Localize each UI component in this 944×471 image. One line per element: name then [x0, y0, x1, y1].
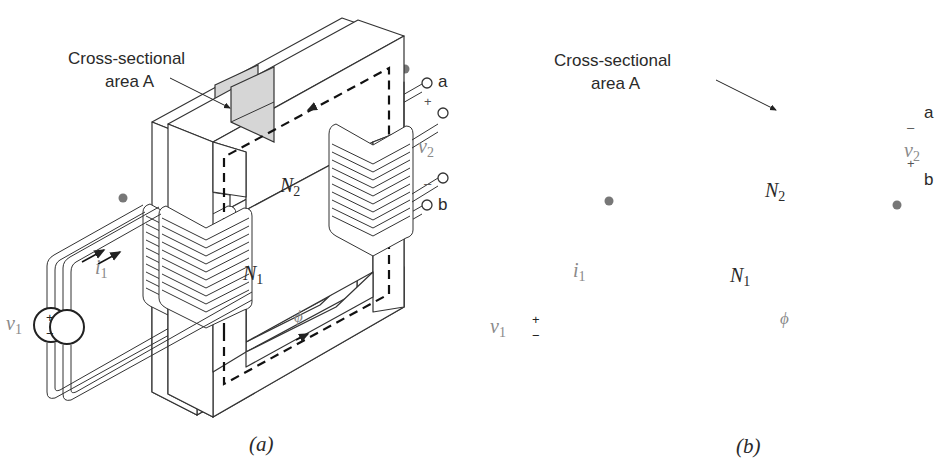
- terminal-b-polarity-b: +: [907, 157, 915, 170]
- source-minus-b: −: [532, 329, 540, 342]
- source-plus-b: +: [532, 313, 540, 326]
- secondary-turns-label: N2: [280, 175, 300, 199]
- cross-section-label-line2-b: area A: [591, 75, 640, 92]
- cross-section-pointer-arrow: [0, 0, 944, 471]
- terminal-a-polarity: +: [424, 95, 432, 108]
- source-plus: +: [46, 311, 54, 324]
- cross-section-label-line1-b: Cross-sectional: [554, 52, 671, 69]
- primary-turns-label: N1: [243, 263, 263, 287]
- terminal-a-label: a: [438, 73, 447, 90]
- source-voltage-label: v1: [6, 313, 22, 337]
- source-voltage-label-b: v1: [490, 316, 506, 340]
- source-minus: −: [46, 327, 54, 340]
- terminal-b-label-b: b: [924, 171, 933, 188]
- caption-a: (a): [249, 434, 274, 455]
- current-label: i1: [95, 257, 108, 281]
- flux-label: ϕ: [294, 308, 303, 325]
- terminal-a-polarity-b: –: [907, 121, 914, 134]
- terminal-b-label: b: [438, 196, 447, 213]
- primary-turns-label-b: N1: [730, 265, 750, 289]
- current-label-b: i1: [573, 260, 586, 284]
- secondary-turns-label-b: N2: [765, 180, 785, 204]
- terminal-a-label-b: a: [924, 104, 933, 121]
- terminal-b-polarity: –: [424, 177, 431, 190]
- secondary-voltage-label: v2: [418, 136, 434, 160]
- flux-label-b: ϕ: [780, 310, 789, 327]
- caption-b: (b): [736, 436, 761, 457]
